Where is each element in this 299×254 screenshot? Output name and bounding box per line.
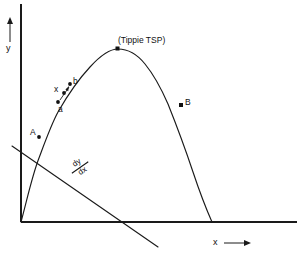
x-axis-label: x [213, 238, 218, 247]
y-axis-label: y [6, 44, 11, 53]
point-label-b: b [73, 77, 78, 86]
figure-canvas: y x (Tippie TSP) A B a b x dy dx [0, 0, 299, 254]
point-marker-peak [116, 47, 120, 51]
up-arrow-icon [7, 17, 13, 24]
point-label-a: a [58, 105, 63, 114]
point-marker-b-cap [179, 103, 183, 107]
point-marker-b [68, 82, 72, 86]
delta-arrow-head-icon [65, 86, 69, 91]
point-label-x: x [54, 85, 58, 94]
right-arrow-icon [244, 240, 251, 246]
total-product-curve [21, 49, 212, 222]
point-marker-a-cap [37, 135, 41, 139]
point-label-b-cap: B [185, 98, 191, 107]
point-label-a-cap: A [30, 128, 36, 137]
peak-label: (Tippie TSP) [118, 36, 165, 45]
